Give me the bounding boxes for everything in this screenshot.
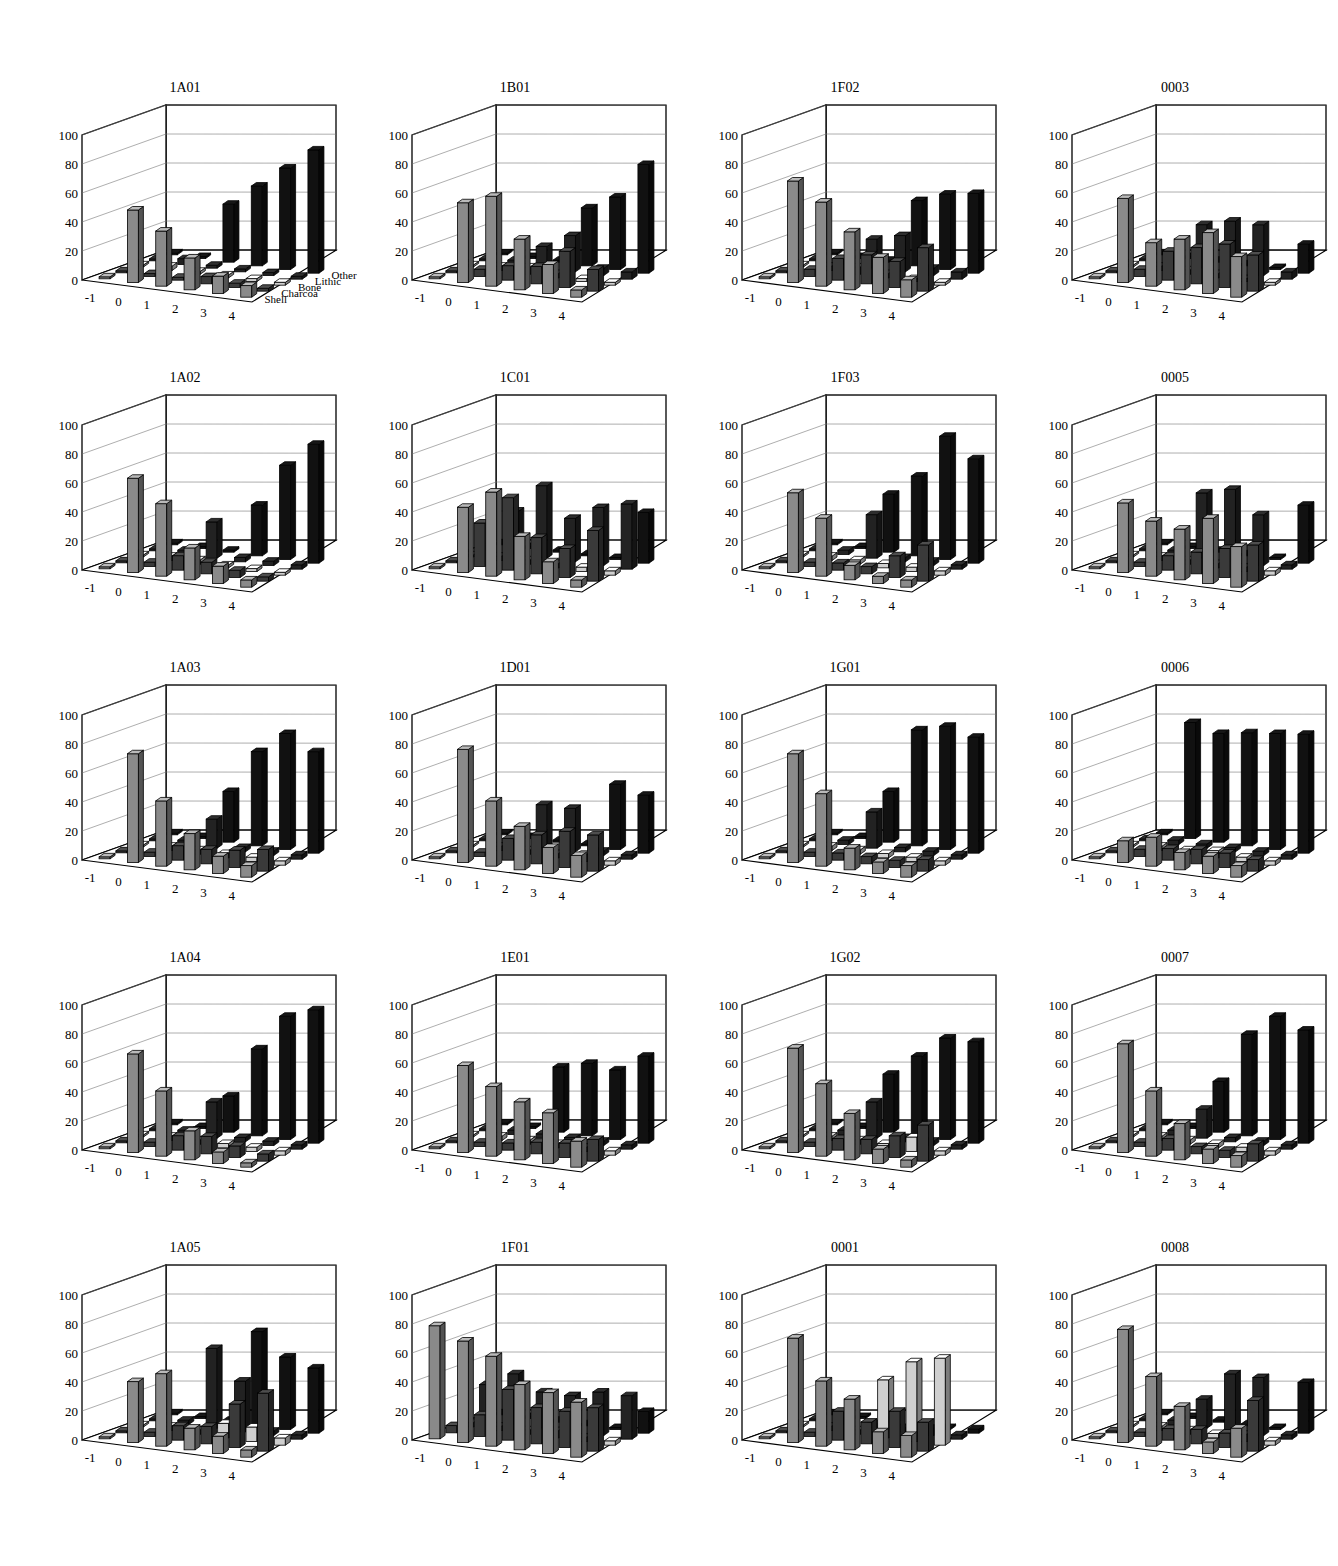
svg-text:-1: -1: [415, 290, 426, 305]
svg-text:60: 60: [65, 186, 78, 201]
svg-text:0: 0: [445, 874, 452, 889]
svg-text:100: 100: [59, 128, 79, 143]
svg-text:0: 0: [775, 1454, 782, 1469]
svg-text:2: 2: [172, 591, 179, 606]
svg-text:40: 40: [65, 505, 78, 520]
chart-panel-0006: 0006020406080100-101234: [1030, 650, 1338, 940]
svg-text:100: 100: [59, 1288, 79, 1303]
svg-text:2: 2: [1162, 881, 1169, 896]
svg-text:80: 80: [395, 157, 408, 172]
svg-text:1: 1: [804, 587, 811, 602]
svg-text:40: 40: [65, 215, 78, 230]
svg-text:60: 60: [395, 766, 408, 781]
svg-text:80: 80: [395, 737, 408, 752]
bar3d-chart: 020406080100-101234: [1030, 940, 1338, 1230]
svg-text:2: 2: [502, 301, 509, 316]
svg-text:-1: -1: [745, 1450, 756, 1465]
svg-text:4: 4: [229, 888, 236, 903]
svg-text:40: 40: [395, 1375, 408, 1390]
svg-text:40: 40: [395, 505, 408, 520]
svg-text:1: 1: [804, 877, 811, 892]
svg-text:60: 60: [65, 476, 78, 491]
chart-panel-0008: 0008020406080100-101234: [1030, 1230, 1338, 1520]
svg-text:0: 0: [72, 1143, 79, 1158]
svg-text:3: 3: [530, 595, 537, 610]
chart-panel-1A01: 1A01020406080100-101234ShellCharcoaBoneL…: [40, 70, 360, 360]
svg-text:2: 2: [172, 1171, 179, 1186]
svg-text:-1: -1: [745, 870, 756, 885]
svg-text:20: 20: [1055, 244, 1068, 259]
svg-text:1: 1: [804, 1167, 811, 1182]
svg-text:3: 3: [200, 1175, 207, 1190]
svg-text:40: 40: [395, 215, 408, 230]
svg-text:80: 80: [1055, 1027, 1068, 1042]
svg-text:60: 60: [725, 186, 738, 201]
svg-text:4: 4: [559, 1178, 566, 1193]
svg-text:4: 4: [229, 308, 236, 323]
svg-text:0: 0: [1062, 273, 1069, 288]
svg-text:-1: -1: [1075, 1160, 1086, 1175]
svg-text:0: 0: [732, 273, 739, 288]
svg-text:40: 40: [65, 1085, 78, 1100]
svg-text:4: 4: [889, 1178, 896, 1193]
svg-text:0: 0: [775, 874, 782, 889]
svg-text:4: 4: [889, 1468, 896, 1483]
svg-text:2: 2: [172, 301, 179, 316]
svg-text:1: 1: [474, 587, 481, 602]
svg-text:100: 100: [59, 708, 79, 723]
svg-text:60: 60: [1055, 476, 1068, 491]
svg-text:100: 100: [719, 998, 739, 1013]
svg-text:20: 20: [395, 534, 408, 549]
svg-text:100: 100: [719, 1288, 739, 1303]
svg-text:3: 3: [860, 595, 867, 610]
svg-text:2: 2: [1162, 591, 1169, 606]
svg-text:20: 20: [65, 1114, 78, 1129]
svg-text:80: 80: [395, 1027, 408, 1042]
svg-text:4: 4: [1219, 598, 1226, 613]
svg-text:80: 80: [725, 447, 738, 462]
svg-text:60: 60: [395, 186, 408, 201]
svg-text:3: 3: [1190, 885, 1197, 900]
svg-text:0: 0: [115, 1454, 122, 1469]
svg-text:2: 2: [1162, 1171, 1169, 1186]
bar3d-chart: 020406080100-101234: [700, 70, 1020, 360]
svg-text:-1: -1: [415, 1450, 426, 1465]
svg-text:80: 80: [65, 1027, 78, 1042]
svg-text:-1: -1: [745, 290, 756, 305]
svg-text:4: 4: [229, 1468, 236, 1483]
chart-panel-1B01: 1B01020406080100-101234: [370, 70, 690, 360]
svg-text:100: 100: [389, 708, 409, 723]
svg-text:2: 2: [502, 1171, 509, 1186]
bar3d-chart: 020406080100-101234: [40, 1230, 360, 1520]
svg-text:2: 2: [502, 881, 509, 896]
chart-panel-1A02: 1A02020406080100-101234: [40, 360, 360, 650]
svg-text:80: 80: [1055, 447, 1068, 462]
svg-text:40: 40: [1055, 795, 1068, 810]
svg-text:-1: -1: [1075, 870, 1086, 885]
svg-text:60: 60: [65, 1056, 78, 1071]
svg-text:2: 2: [172, 881, 179, 896]
svg-text:0: 0: [115, 294, 122, 309]
svg-text:0: 0: [445, 1164, 452, 1179]
svg-text:4: 4: [1219, 888, 1226, 903]
svg-text:20: 20: [395, 1404, 408, 1419]
svg-text:100: 100: [389, 128, 409, 143]
chart-panel-0007: 0007020406080100-101234: [1030, 940, 1338, 1230]
svg-text:60: 60: [395, 476, 408, 491]
svg-text:2: 2: [832, 591, 839, 606]
svg-text:100: 100: [1049, 708, 1069, 723]
svg-text:-1: -1: [85, 580, 96, 595]
svg-text:4: 4: [1219, 1178, 1226, 1193]
chart-panel-1G02: 1G02020406080100-101234: [700, 940, 1020, 1230]
svg-text:20: 20: [65, 534, 78, 549]
bar3d-chart: 020406080100-101234: [700, 650, 1020, 940]
chart-panel-1A05: 1A05020406080100-101234: [40, 1230, 360, 1520]
svg-text:80: 80: [65, 737, 78, 752]
chart-panel-0005: 0005020406080100-101234: [1030, 360, 1338, 650]
svg-text:1: 1: [804, 1457, 811, 1472]
chart-panel-1A03: 1A03020406080100-101234: [40, 650, 360, 940]
svg-text:100: 100: [719, 708, 739, 723]
svg-text:100: 100: [389, 1288, 409, 1303]
bar3d-chart: 020406080100-101234: [1030, 1230, 1338, 1520]
svg-text:40: 40: [1055, 215, 1068, 230]
